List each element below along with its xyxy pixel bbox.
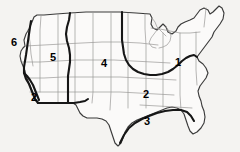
zone-label-1: 1: [175, 57, 181, 68]
zone-label-3: 3: [144, 116, 150, 127]
zone-label-5: 5: [50, 52, 56, 63]
map-graphic: [0, 0, 240, 152]
zone-label-2-california: 2: [31, 92, 37, 103]
zone-label-4: 4: [101, 58, 107, 69]
zone-label-6: 6: [11, 37, 17, 48]
zone-label-2-southeast: 2: [143, 89, 149, 100]
united-states-zone-map: 6 5 4 1 2 2 3: [0, 0, 240, 152]
